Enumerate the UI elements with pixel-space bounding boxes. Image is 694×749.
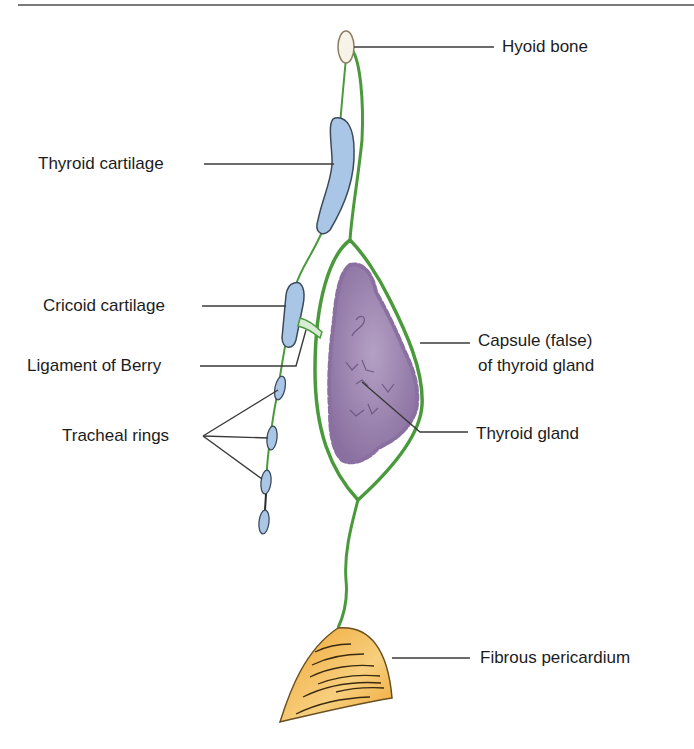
thyroid-gland [329, 264, 417, 462]
thyroid-cartilage [317, 118, 354, 234]
cricoid-cartilage [282, 282, 304, 347]
label-cricoid-cartilage: Cricoid cartilage [43, 296, 165, 316]
label-hyoid-bone: Hyoid bone [502, 37, 588, 57]
label-thyroid-cartilage: Thyroid cartilage [38, 154, 164, 174]
label-capsule-line1: Capsule (false) [478, 331, 592, 351]
label-fibrous-pericardium: Fibrous pericardium [480, 648, 630, 668]
label-capsule-line2: of thyroid gland [478, 356, 594, 376]
label-ligament-of-berry: Ligament of Berry [27, 356, 161, 376]
hyoid-bone [338, 31, 354, 63]
fibrous-pericardium [280, 628, 392, 722]
label-tracheal-rings: Tracheal rings [62, 426, 169, 446]
label-thyroid-gland: Thyroid gland [476, 424, 579, 444]
